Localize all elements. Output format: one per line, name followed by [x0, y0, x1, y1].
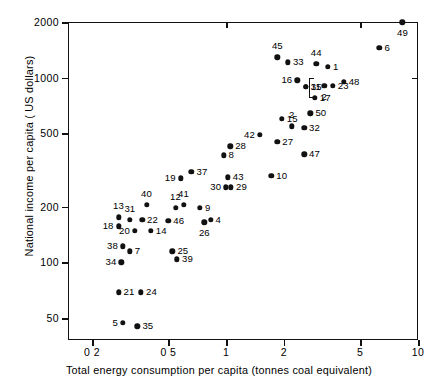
data-point-label: 33 — [293, 58, 304, 68]
data-point-label: 16 — [281, 76, 292, 86]
data-point-label: 9 — [205, 203, 210, 213]
data-point-label: 22 — [147, 215, 158, 225]
data-point-label: 10 — [276, 171, 287, 181]
y-tick-mark — [62, 133, 68, 135]
data-point-label: 47 — [309, 149, 320, 159]
data-point-label: 7 — [135, 246, 140, 256]
data-point-label: 24 — [146, 287, 157, 297]
data-point-label: 19 — [165, 174, 176, 184]
data-point-label: 46 — [173, 216, 184, 226]
data-point-label: 48 — [349, 77, 360, 87]
x-tick-label: 0 2 — [84, 346, 100, 358]
y-tick-mark — [62, 318, 68, 320]
plot-area: 20001000500200100500 20 512510 496453344… — [68, 22, 418, 340]
data-point-label: 38 — [107, 242, 118, 252]
data-point-label: 21 — [124, 287, 135, 297]
data-point-label: 8 — [229, 150, 234, 160]
data-point-label: 4 — [216, 215, 221, 225]
y-tick-label: 1000 — [34, 72, 59, 84]
scatter-plot-figure: 20001000500200100500 20 512510 496453344… — [0, 0, 438, 391]
data-point-label: 44 — [311, 48, 322, 58]
y-tick-label: 100 — [40, 256, 59, 268]
x-tick-label: 1 — [223, 346, 229, 358]
y-tick-mark — [62, 78, 68, 80]
y-tick-label: 50 — [47, 312, 59, 324]
data-point-label: 39 — [182, 254, 193, 264]
y-tick-mark — [62, 262, 68, 264]
data-point-label: 42 — [244, 130, 255, 140]
data-point-label: 23 — [338, 81, 349, 91]
x-tick-label: 10 — [412, 346, 424, 358]
y-tick-mark-right — [412, 78, 418, 80]
data-point-label: 31 — [124, 204, 135, 214]
data-point-label: 6 — [384, 43, 389, 53]
data-point-label: 40 — [141, 189, 152, 199]
y-axis-title: National income per capita ( US dollars) — [23, 31, 35, 281]
x-tick-label: 5 — [357, 346, 363, 358]
data-point-label: 37 — [196, 167, 207, 177]
data-point-label: 50 — [315, 109, 326, 119]
x-tick-mark-top — [226, 22, 228, 28]
x-tick-mark-top — [360, 22, 362, 28]
data-point-label: 35 — [142, 322, 153, 332]
data-point-label: 26 — [199, 228, 210, 238]
y-tick-mark — [62, 22, 68, 24]
data-point-label: 30 — [210, 182, 221, 192]
data-point-label: 20 — [119, 226, 130, 236]
data-point-label: 13 — [113, 202, 124, 212]
data-point-label: 34 — [106, 258, 117, 268]
data-point-label: 12 — [170, 192, 181, 202]
data-point-label: 28 — [235, 141, 246, 151]
data-point-label: 29 — [236, 182, 247, 192]
data-point-label: 32 — [309, 123, 320, 133]
y-tick-mark — [62, 207, 68, 209]
y-tick-label: 200 — [40, 201, 59, 213]
data-point-label: 27 — [282, 137, 293, 147]
pair-bracket — [309, 78, 314, 98]
x-tick-label: 0 5 — [160, 346, 176, 358]
data-point-label: 2 — [289, 111, 294, 121]
data-point-label: 14 — [156, 226, 167, 236]
y-tick-label: 2000 — [34, 16, 59, 28]
data-point-label: 5 — [113, 318, 118, 328]
data-point-label: 49 — [397, 28, 408, 38]
data-point-label: 45 — [272, 42, 283, 52]
data-point-label: 17 — [320, 93, 331, 103]
x-tick-label: 2 — [281, 346, 287, 358]
x-axis-title: Total energy consumption per capita (ton… — [0, 364, 438, 376]
data-point-label: 18 — [103, 221, 114, 231]
y-tick-label: 500 — [40, 127, 59, 139]
data-point-label: 1 — [333, 62, 338, 72]
